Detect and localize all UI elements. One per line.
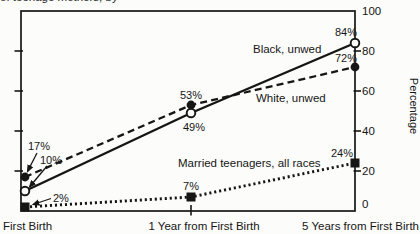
y-tick-label: 0 — [362, 198, 368, 210]
series-label-white-unwed: White, unwed — [256, 92, 326, 104]
y-tick-label: 40 — [362, 125, 375, 137]
point-label-white-unwed: 17% — [28, 140, 50, 152]
marker-filled-square-married-teenagers-all-races — [187, 193, 196, 202]
label-arrow-married-teenagers-all-races — [33, 199, 51, 205]
label-arrow-white-unwed — [28, 153, 38, 172]
series-label-married-teenagers: Married teenagers, all races — [178, 157, 321, 169]
y-tick-label: 80 — [362, 45, 375, 57]
point-label-married-teenagers-all-races: 24% — [331, 147, 353, 159]
marker-filled-circle-white-unwed — [187, 101, 196, 110]
point-label-black-unwed: 49% — [183, 121, 205, 133]
line-chart: 02040608010010%49%84%17%53%72%2%7%24% Pe… — [0, 0, 420, 234]
x-label-first-birth: First Birth — [3, 220, 52, 232]
y-tick-label: 60 — [362, 85, 375, 97]
point-label-married-teenagers-all-races: 7% — [183, 180, 199, 192]
marker-open-circle-black-unwed — [351, 39, 360, 48]
marker-filled-circle-white-unwed — [21, 173, 30, 182]
point-label-white-unwed: 53% — [180, 89, 202, 101]
point-label-married-teenagers-all-races: 2% — [53, 192, 69, 204]
marker-open-circle-black-unwed — [187, 109, 196, 118]
plot-area: 02040608010010%49%84%17%53%72%2%7%24% — [15, 5, 382, 216]
y-tick-label: 100 — [362, 5, 381, 17]
point-label-black-unwed: 84% — [335, 26, 357, 38]
figure-page: { "caption": { "visible_fragment": "of t… — [0, 0, 420, 234]
series-label-black-unwed: Black, unwed — [253, 43, 321, 55]
x-label-5-years: 5 Years from First Birth — [302, 220, 419, 232]
x-label-1-year: 1 Year from First Birth — [148, 220, 259, 232]
point-label-white-unwed: 72% — [335, 52, 357, 64]
point-label-black-unwed: 10% — [40, 154, 62, 166]
y-axis-title: Percentage — [408, 78, 420, 134]
marker-filled-square-married-teenagers-all-races — [21, 203, 30, 212]
marker-open-circle-black-unwed — [21, 187, 30, 196]
marker-filled-square-married-teenagers-all-races — [351, 159, 360, 168]
y-tick-label: 20 — [362, 165, 375, 177]
